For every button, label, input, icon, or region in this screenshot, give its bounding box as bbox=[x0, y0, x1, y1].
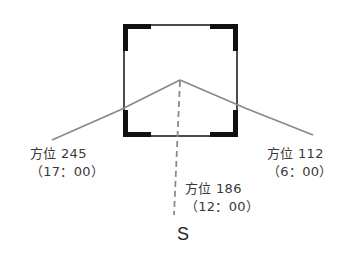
azimuth-time: （17：00） bbox=[30, 163, 104, 181]
azimuth-label-245: 方位 245 （17：00） bbox=[30, 145, 104, 181]
azimuth-label-186: 方位 186 （12：00） bbox=[185, 180, 259, 216]
azimuth-time: （6：00） bbox=[267, 163, 333, 181]
azimuth-value: 方位 112 bbox=[267, 145, 333, 163]
azimuth-time: （12：00） bbox=[185, 198, 259, 216]
azimuth-line-186 bbox=[174, 81, 180, 215]
azimuth-diagram bbox=[0, 0, 358, 255]
azimuth-line-245 bbox=[52, 80, 180, 140]
south-label: S bbox=[177, 224, 189, 245]
azimuth-label-112: 方位 112 （6：00） bbox=[267, 145, 333, 181]
azimuth-value: 方位 245 bbox=[30, 145, 104, 163]
azimuth-value: 方位 186 bbox=[185, 180, 259, 198]
azimuth-line-112 bbox=[180, 80, 313, 135]
